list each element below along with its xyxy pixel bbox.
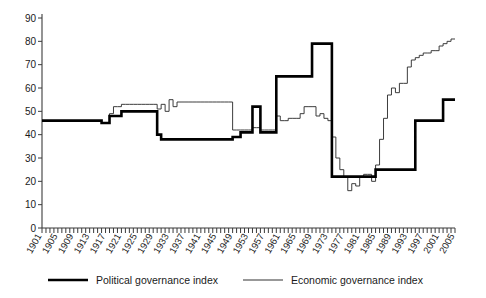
x-axis-tick-label: 1941 bbox=[182, 232, 202, 256]
x-axis-tick-label: 1973 bbox=[310, 232, 330, 256]
x-axis-tick-label: 1961 bbox=[262, 232, 282, 256]
y-axis-tick-marks bbox=[38, 18, 42, 228]
y-axis-tick-label: 20 bbox=[25, 176, 37, 187]
x-axis-tick-label: 1969 bbox=[294, 232, 314, 256]
x-axis-tick-label: 1925 bbox=[119, 232, 139, 256]
x-axis-tick-label: 1965 bbox=[278, 232, 298, 256]
legend-label-political: Political governance index bbox=[96, 274, 219, 286]
x-axis-tick-label: 1953 bbox=[230, 232, 250, 256]
x-axis-tick-label: 1937 bbox=[167, 232, 187, 256]
series-line-economic-governance-index bbox=[42, 39, 455, 191]
y-axis-tick-label: 30 bbox=[25, 153, 37, 164]
x-axis-tick-label: 1921 bbox=[103, 232, 123, 256]
x-axis-tick-marks bbox=[42, 228, 455, 233]
legend-label-economic: Economic governance index bbox=[291, 274, 424, 286]
x-axis-tick-label: 1933 bbox=[151, 232, 171, 256]
x-axis-tick-label: 1985 bbox=[357, 232, 377, 256]
x-axis-tick-label: 1945 bbox=[198, 232, 218, 256]
x-axis-tick-label: 1901 bbox=[24, 232, 44, 256]
x-axis-tick-label: 1909 bbox=[55, 232, 75, 256]
x-axis-tick-label: 1913 bbox=[71, 232, 91, 256]
line-chart: 0102030405060708090 19011905190919131917… bbox=[0, 0, 486, 298]
x-axis-tick-label: 1905 bbox=[40, 232, 60, 256]
y-axis-tick-label: 50 bbox=[25, 106, 37, 117]
y-axis-tick-label: 10 bbox=[25, 199, 37, 210]
x-axis-tick-label: 2005 bbox=[437, 232, 457, 256]
x-axis-tick-label: 1977 bbox=[325, 232, 345, 256]
x-axis-tick-labels: 1901190519091913191719211925192919331937… bbox=[24, 232, 457, 256]
y-axis-tick-labels: 0102030405060708090 bbox=[25, 13, 37, 234]
x-axis-tick-label: 1997 bbox=[405, 232, 425, 256]
chart-legend: Political governance index Economic gove… bbox=[48, 274, 424, 286]
x-axis-tick-label: 1981 bbox=[341, 232, 361, 256]
chart-container: 0102030405060708090 19011905190919131917… bbox=[0, 0, 486, 298]
x-axis-tick-label: 1957 bbox=[246, 232, 266, 256]
x-axis-tick-label: 1989 bbox=[373, 232, 393, 256]
series-line-political-governance-index bbox=[42, 44, 455, 177]
x-axis-tick-label: 2001 bbox=[421, 232, 441, 256]
x-axis-tick-label: 1993 bbox=[389, 232, 409, 256]
x-axis-tick-label: 1949 bbox=[214, 232, 234, 256]
y-axis-tick-label: 60 bbox=[25, 83, 37, 94]
y-axis-tick-label: 90 bbox=[25, 13, 37, 24]
y-axis-tick-label: 70 bbox=[25, 59, 37, 70]
x-axis-tick-label: 1917 bbox=[87, 232, 107, 256]
y-axis-tick-label: 80 bbox=[25, 36, 37, 47]
x-axis-tick-label: 1929 bbox=[135, 232, 155, 256]
y-axis-tick-label: 40 bbox=[25, 129, 37, 140]
